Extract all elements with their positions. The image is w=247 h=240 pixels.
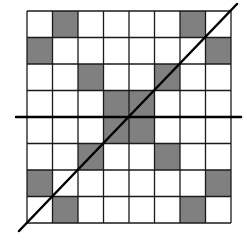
empty-cell (129, 11, 155, 38)
empty-cell (27, 117, 53, 144)
symmetry-grid-diagram (0, 0, 247, 240)
empty-cell (180, 170, 206, 197)
shaded-cell (104, 91, 130, 118)
empty-cell (206, 117, 232, 144)
empty-cell (78, 11, 104, 38)
empty-cell (27, 11, 53, 38)
empty-cell (206, 197, 232, 224)
empty-cell (155, 11, 181, 38)
empty-cell (53, 91, 79, 118)
shaded-cell (27, 170, 53, 197)
empty-cell (180, 91, 206, 118)
empty-cell (104, 64, 130, 91)
empty-cell (104, 197, 130, 224)
empty-cell (129, 170, 155, 197)
empty-cell (104, 170, 130, 197)
empty-cell (78, 38, 104, 65)
shaded-cell (180, 11, 206, 38)
empty-cell (53, 38, 79, 65)
empty-cell (104, 38, 130, 65)
shaded-cell (180, 197, 206, 224)
empty-cell (155, 117, 181, 144)
empty-cell (53, 144, 79, 171)
shaded-cell (27, 38, 53, 65)
empty-cell (53, 64, 79, 91)
empty-cell (27, 144, 53, 171)
empty-cell (180, 144, 206, 171)
shaded-cell (206, 170, 232, 197)
empty-cell (206, 64, 232, 91)
empty-cell (155, 91, 181, 118)
empty-cell (206, 91, 232, 118)
empty-cell (78, 91, 104, 118)
shaded-cell (53, 11, 79, 38)
empty-cell (78, 197, 104, 224)
empty-cell (155, 170, 181, 197)
empty-cell (53, 117, 79, 144)
empty-cell (180, 117, 206, 144)
shaded-cell (206, 38, 232, 65)
shaded-cell (155, 144, 181, 171)
empty-cell (27, 91, 53, 118)
empty-cell (129, 144, 155, 171)
shaded-cell (129, 117, 155, 144)
empty-cell (104, 11, 130, 38)
empty-cell (27, 64, 53, 91)
empty-cell (180, 64, 206, 91)
empty-cell (129, 64, 155, 91)
empty-cell (78, 170, 104, 197)
empty-cell (206, 144, 232, 171)
empty-cell (78, 117, 104, 144)
empty-cell (129, 38, 155, 65)
empty-cell (155, 38, 181, 65)
shaded-cell (78, 64, 104, 91)
empty-cell (155, 197, 181, 224)
empty-cell (129, 197, 155, 224)
shaded-cell (53, 197, 79, 224)
empty-cell (104, 144, 130, 171)
